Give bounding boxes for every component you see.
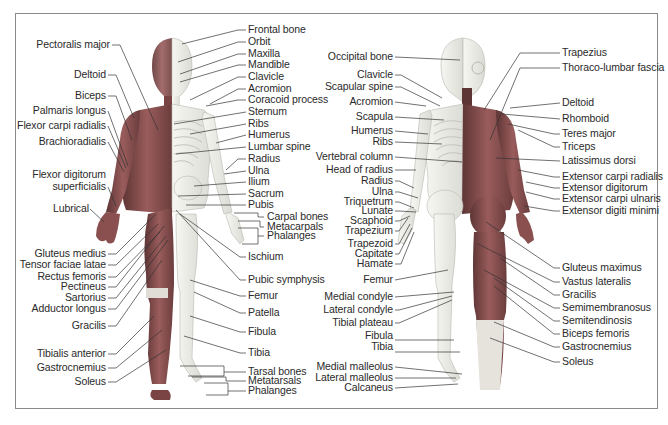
label-phalanges: Phalanges (248, 385, 297, 396)
label-calcaneus: Calcaneus (344, 382, 393, 393)
label-rhomboid: Rhomboid (562, 113, 609, 124)
label-vertebral-column: Vertebral column (316, 151, 393, 162)
label-clavicle: Clavicle (248, 71, 284, 82)
label-lateral-condyle: Lateral condyle (323, 304, 393, 315)
back-figure (398, 38, 534, 390)
label-occipital-bone: Occipital bone (328, 51, 393, 62)
label-thoraco-lumbar-fascia: Thoraco-lumbar fascia (562, 62, 664, 73)
label-frontal-bone: Frontal bone (248, 24, 306, 35)
front-figure (96, 38, 244, 400)
label-trapezius: Trapezius (562, 47, 607, 58)
label-ribs: Ribs (372, 136, 393, 147)
label-superficialis: superficialis (52, 181, 106, 192)
label-coracoid-process: Coracoid process (248, 94, 328, 105)
label-medial-condyle: Medial condyle (324, 291, 393, 302)
label-trapezium: Trapezium (345, 225, 393, 236)
label-patella: Patella (248, 307, 279, 318)
label-extensor-digiti-minimi: Extensor digiti minimi (562, 205, 659, 216)
label-scapula: Scapula (356, 111, 393, 122)
label-gluteus-maximus: Gluteus maximus (562, 262, 642, 273)
label-biceps-femoris: Biceps femoris (562, 328, 629, 339)
label-gastrocnemius: Gastrocnemius (37, 362, 106, 373)
label-extensor-carpi-ulnaris: Extensor carpi ulnaris (562, 193, 661, 204)
label-scapular-spine: Scapular spine (325, 81, 393, 92)
label-tibia: Tibia (371, 341, 393, 352)
label-femur: Femur (248, 290, 278, 301)
label-pubic-symphysis: Pubic symphysis (248, 274, 325, 285)
label-tibia: Tibia (248, 347, 270, 358)
label-gastrocnemius: Gastrocnemius (562, 341, 631, 352)
label-orbit: Orbit (248, 36, 270, 47)
label-lumbar-spine: Lumbar spine (248, 141, 310, 152)
label-lubrical: Lubrical (53, 203, 89, 214)
label-soleus: Soleus (74, 376, 106, 387)
label-pectoralis-major: Pectoralis major (36, 39, 110, 50)
label-triceps: Triceps (562, 141, 595, 152)
label-flexor-digitorum: Flexor digitorum (32, 169, 106, 180)
label-sternum: Sternum (248, 106, 287, 117)
label-acromion: Acromion (349, 96, 393, 107)
label-semimembranosus: Semimembranosus (562, 302, 651, 313)
label-adductor-longus: Adductor longus (32, 303, 106, 314)
label-gracilis: Gracilis (72, 320, 106, 331)
label-femur: Femur (363, 274, 393, 285)
label-vastus-lateralis: Vastus lateralis (562, 276, 631, 287)
label-deltoid: Deltoid (562, 97, 594, 108)
label-clavicle: Clavicle (357, 69, 393, 80)
label-gracilis: Gracilis (562, 289, 596, 300)
label-humerus: Humerus (248, 129, 290, 140)
label-teres-major: Teres major (562, 128, 616, 139)
label-semitendinosis: Semitendinosis (562, 315, 632, 326)
label-soleus: Soleus (562, 356, 594, 367)
label-ischium: Ischium (248, 251, 283, 262)
label-tibial-plateau: Tibial plateau (332, 317, 393, 328)
label-palmaris-longus: Palmaris longus (33, 105, 106, 116)
label-mandible: Mandible (248, 59, 290, 70)
label-hamate: Hamate (357, 258, 393, 269)
label-tibialis-anterior: Tibialis anterior (37, 348, 106, 359)
label-fibula: Fibula (248, 326, 276, 337)
label-tensor-faciae-latae: Tensor faciae latae (20, 259, 106, 270)
label-ilium: Ilium (248, 176, 270, 187)
label-pubis: Pubis (248, 199, 274, 210)
label-brachioradialis: Brachioradialis (39, 136, 106, 147)
label-radius: Radius (248, 153, 280, 164)
label-latissimus-dorsi: Latissimus dorsi (562, 155, 636, 166)
label-flexor-carpi-radialis: Flexor carpi radialis (17, 120, 106, 131)
label-phalanges: Phalanges (267, 230, 316, 241)
label-biceps: Biceps (75, 90, 106, 101)
label-deltoid: Deltoid (74, 69, 106, 80)
